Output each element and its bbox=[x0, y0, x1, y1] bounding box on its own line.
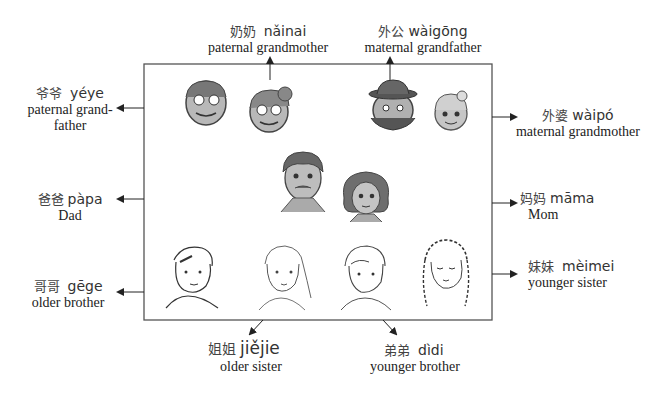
arrow-didi bbox=[383, 320, 396, 334]
chinese-mama: 妈妈 bbox=[520, 191, 546, 206]
label-meimei: 妹妹 mèimei younger sister bbox=[528, 257, 648, 291]
face-waigong bbox=[367, 78, 419, 133]
face-jiejie bbox=[253, 240, 315, 312]
face-papa bbox=[275, 148, 331, 213]
label-jiejie: 姐姐 jiějie older sister bbox=[208, 339, 318, 375]
english-jiejie: older sister bbox=[208, 359, 318, 375]
chinese-gege: 哥哥 bbox=[34, 279, 60, 294]
english-meimei: younger sister bbox=[528, 275, 648, 291]
arrow-jiejie bbox=[250, 320, 263, 334]
english-waigong: maternal grandfather bbox=[358, 40, 488, 56]
english-yeye-2: father bbox=[20, 118, 120, 134]
pinyin-didi: dìdi bbox=[418, 342, 444, 358]
face-gege bbox=[162, 240, 224, 312]
label-waipo: 外婆 wàipó maternal grandmother bbox=[498, 106, 658, 140]
english-mama: Mom bbox=[520, 207, 610, 223]
chinese-meimei: 妹妹 bbox=[528, 259, 554, 274]
face-nainai bbox=[245, 82, 295, 134]
chinese-nainai: 奶奶 bbox=[230, 24, 256, 39]
chinese-jiejie: 姐姐 bbox=[208, 341, 236, 357]
chinese-waigong: 外公 bbox=[378, 24, 404, 39]
label-mama: 妈妈 māma Mom bbox=[520, 189, 610, 223]
chinese-papa: 爸爸 bbox=[38, 192, 64, 207]
face-yeye bbox=[180, 75, 232, 127]
english-nainai: paternal grandmother bbox=[188, 40, 348, 56]
face-mama bbox=[340, 168, 392, 223]
label-yeye: 爷爷 yéye paternal grand- father bbox=[20, 84, 120, 135]
english-waipo: maternal grandmother bbox=[498, 124, 658, 140]
pinyin-meimei: mèimei bbox=[562, 258, 614, 274]
pinyin-jiejie: jiějie bbox=[240, 338, 280, 358]
label-papa: 爸爸 pàpa Dad bbox=[25, 190, 115, 224]
english-gege: older brother bbox=[18, 295, 118, 311]
english-papa: Dad bbox=[25, 208, 115, 224]
pinyin-mama: māma bbox=[550, 190, 594, 206]
label-didi: 弟弟 dìdi younger brother bbox=[370, 341, 490, 375]
pinyin-nainai: nǎinai bbox=[264, 23, 307, 39]
english-yeye: paternal grand- bbox=[20, 102, 120, 118]
pinyin-waigong: wàigōng bbox=[408, 23, 467, 39]
pinyin-gege: gēge bbox=[68, 278, 103, 294]
label-gege: 哥哥 gēge older brother bbox=[18, 277, 118, 311]
chinese-didi: 弟弟 bbox=[384, 343, 410, 358]
face-waipo bbox=[430, 88, 472, 133]
face-didi bbox=[335, 240, 397, 312]
face-meimei bbox=[415, 236, 477, 312]
chinese-yeye: 爷爷 bbox=[36, 86, 62, 101]
english-didi: younger brother bbox=[370, 359, 490, 375]
pinyin-waipo: wàipó bbox=[572, 107, 613, 123]
pinyin-papa: pàpa bbox=[68, 191, 103, 207]
pinyin-yeye: yéye bbox=[70, 85, 104, 101]
label-nainai: 奶奶 nǎinai paternal grandmother bbox=[188, 22, 348, 56]
chinese-waipo: 外婆 bbox=[542, 108, 568, 123]
label-waigong: 外公 wàigōng maternal grandfather bbox=[358, 22, 488, 56]
